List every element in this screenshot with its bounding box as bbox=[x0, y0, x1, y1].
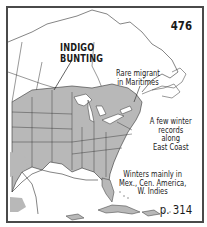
annotation-text: records along bbox=[149, 126, 192, 143]
annotation-text: W. Indies bbox=[119, 187, 186, 196]
range-map-frame: 476 INDIGO BUNTING Rare migrant in Marit… bbox=[6, 6, 204, 223]
gulf-coast bbox=[12, 170, 98, 192]
hispaniola bbox=[142, 210, 160, 216]
annotation-east-coast: A few winter records along East Coast bbox=[149, 117, 192, 151]
page-reference: p. 314 bbox=[160, 204, 192, 217]
annotation-maritimes: Rare migrant in Maritimes bbox=[116, 69, 160, 86]
annotation-text: in Maritimes bbox=[116, 78, 160, 87]
annotation-winter-range: Winters mainly in Mex., Cen. America, W.… bbox=[119, 170, 186, 196]
species-number: 476 bbox=[171, 20, 192, 33]
cuba bbox=[98, 205, 140, 214]
species-name-line-2: BUNTING bbox=[60, 53, 103, 64]
species-leader-line bbox=[54, 60, 72, 90]
florida bbox=[102, 178, 114, 202]
annotation-text: East Coast bbox=[149, 143, 192, 152]
species-name: INDIGO BUNTING bbox=[60, 42, 103, 64]
